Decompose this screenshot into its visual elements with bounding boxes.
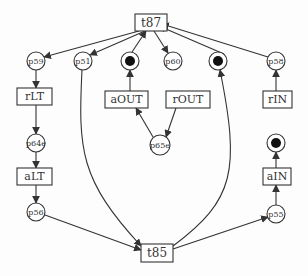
transition-label: aIN — [267, 170, 288, 183]
transition-label: t87 — [141, 16, 161, 30]
place-pA — [121, 52, 139, 70]
place-p55: p55 — [267, 205, 285, 223]
places-layer: p59p51p60p58p64ep65ep56p55 — [26, 52, 285, 223]
arc — [136, 108, 153, 137]
transition-t87: t87 — [135, 14, 167, 31]
transition-aLT: aLT — [17, 168, 52, 185]
place-label: p51 — [75, 57, 90, 66]
place-label: p65e — [150, 141, 170, 150]
transition-aIN: aIN — [263, 168, 291, 185]
place-label: p55 — [268, 210, 283, 219]
arc — [154, 31, 168, 53]
petri-net-diagram: p59p51p60p58p64ep65ep56p55 t87rLTaOUTrOU… — [0, 0, 308, 276]
arc — [173, 217, 268, 249]
place-pC — [267, 134, 285, 152]
token-icon — [271, 138, 281, 148]
place-p59: p59 — [27, 52, 45, 70]
arc — [45, 215, 141, 250]
place-label: p58 — [268, 57, 283, 66]
place-pB — [209, 52, 227, 70]
transition-label: rLT — [25, 90, 45, 103]
arc — [90, 31, 145, 55]
place-label: p59 — [28, 57, 43, 66]
transition-label: aLT — [24, 170, 45, 183]
transition-label: t85 — [147, 246, 167, 260]
place-p51: p51 — [74, 52, 92, 70]
arc — [166, 108, 176, 137]
place-label: p64e — [26, 139, 46, 148]
transition-t85: t85 — [141, 244, 173, 262]
transition-aOUT: aOUT — [105, 91, 148, 108]
transition-rIN: rIN — [263, 91, 292, 108]
transition-rLT: rLT — [17, 88, 52, 105]
place-p64e: p64e — [26, 134, 46, 152]
place-p65e: p65e — [150, 135, 170, 155]
place-p58: p58 — [267, 52, 285, 70]
transition-label: rOUT — [173, 93, 205, 106]
token-icon — [213, 56, 223, 66]
place-p60: p60 — [164, 52, 182, 70]
petri-net-svg: p59p51p60p58p64ep65ep56p55 t87rLTaOUTrOU… — [0, 0, 308, 276]
place-label: p56 — [28, 208, 43, 217]
place-label: p60 — [165, 57, 180, 66]
token-icon — [125, 56, 135, 66]
transition-label: rIN — [268, 93, 288, 106]
transition-rOUT: rOUT — [166, 91, 210, 108]
place-p56: p56 — [27, 203, 45, 221]
transition-label: aOUT — [110, 93, 143, 106]
